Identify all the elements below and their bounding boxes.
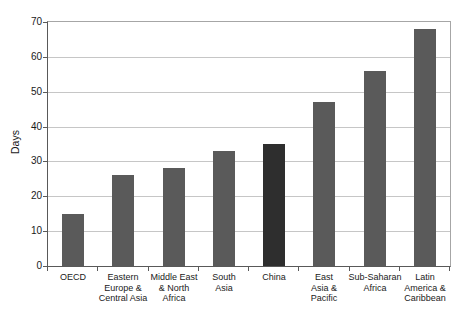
y-tick-50: [43, 92, 47, 93]
y-tick-label-0: 0: [12, 260, 42, 272]
bar-oecd: [62, 214, 84, 266]
y-tick-label-20: 20: [12, 190, 42, 202]
y-tick-label-70: 70: [12, 16, 42, 28]
bar-eastern-europe-central-asia: [112, 175, 134, 266]
x-tick-8: [449, 267, 450, 271]
bar-china: [263, 144, 285, 266]
x-tick-3: [198, 267, 199, 271]
x-label-latin-america-caribbean: Latin America & Caribbean: [390, 272, 460, 304]
y-tick-label-30: 30: [12, 155, 42, 167]
bar-south-asia: [213, 151, 235, 266]
y-axis-title: Days: [9, 130, 21, 154]
y-tick-label-60: 60: [12, 51, 42, 63]
x-tick-1: [97, 267, 98, 271]
bar-sub-saharan-africa: [364, 71, 386, 266]
gridline-50: [48, 92, 450, 93]
bar-middle-east-north-africa: [163, 168, 185, 266]
gridline-20: [48, 196, 450, 197]
y-tick-70: [43, 22, 47, 23]
x-tick-2: [148, 267, 149, 271]
gridline-60: [48, 57, 450, 58]
y-tick-30: [43, 161, 47, 162]
y-tick-label-50: 50: [12, 86, 42, 98]
y-tick-label-40: 40: [12, 121, 42, 133]
gridline-10: [48, 231, 450, 232]
x-tick-5: [298, 267, 299, 271]
gridline-40: [48, 127, 450, 128]
y-tick-20: [43, 196, 47, 197]
y-tick-10: [43, 231, 47, 232]
x-tick-6: [349, 267, 350, 271]
gridline-30: [48, 161, 450, 162]
x-tick-4: [248, 267, 249, 271]
bar-east-asia-pacific: [313, 102, 335, 266]
y-tick-60: [43, 57, 47, 58]
x-tick-7: [399, 267, 400, 271]
bar-latin-america-caribbean: [414, 29, 436, 266]
y-tick-40: [43, 127, 47, 128]
x-tick-0: [47, 267, 48, 271]
bar-chart-figure: Days 010203040506070OECDEastern Europe &…: [0, 0, 460, 322]
y-tick-label-10: 10: [12, 225, 42, 237]
